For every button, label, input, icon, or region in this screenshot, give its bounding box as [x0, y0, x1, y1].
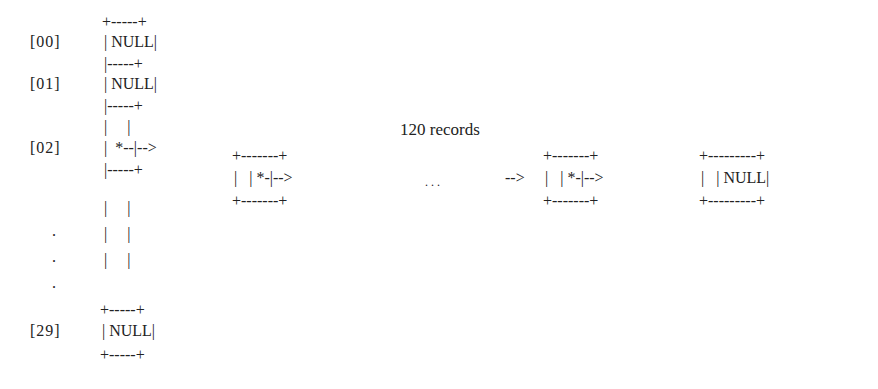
- box-line: | |: [104, 226, 130, 242]
- index-00: [00]: [30, 34, 61, 50]
- box-line: |-----+: [104, 98, 143, 114]
- ellipsis-dot: .: [52, 223, 56, 239]
- node-body: | | *-|-->: [545, 170, 604, 186]
- index-01: [01]: [30, 76, 61, 92]
- box-line: | NULL|: [104, 76, 157, 92]
- node-border: +-------+: [232, 148, 287, 164]
- list-ellipsis: . . .: [425, 174, 440, 190]
- index-02: [02]: [30, 140, 61, 156]
- node-border: +---------+: [699, 193, 765, 209]
- box-line: | |: [104, 119, 130, 135]
- arrow: -->: [505, 170, 525, 186]
- box-line: |-----+: [104, 162, 143, 178]
- node-border: +-------+: [543, 148, 598, 164]
- index-29: [29]: [30, 323, 61, 339]
- box-line: | *--|-->: [104, 140, 157, 156]
- node-border: +-------+: [232, 193, 287, 209]
- box-line: +-----+: [102, 14, 147, 30]
- box-line: | |: [104, 252, 130, 268]
- ellipsis-dot: .: [52, 275, 56, 291]
- box-line: |-----+: [104, 56, 143, 72]
- box-line: | NULL|: [104, 34, 157, 50]
- ellipsis-dot: .: [52, 249, 56, 265]
- box-line: | |: [104, 200, 130, 216]
- node-border: +-------+: [543, 193, 598, 209]
- node-body: | | NULL|: [701, 170, 769, 186]
- records-label: 120 records: [400, 122, 480, 138]
- box-line: | NULL|: [102, 323, 155, 339]
- node-body: | | *-|-->: [234, 170, 293, 186]
- box-line: +-----+: [100, 302, 145, 318]
- box-line: +-----+: [100, 347, 145, 363]
- node-border: +---------+: [699, 148, 765, 164]
